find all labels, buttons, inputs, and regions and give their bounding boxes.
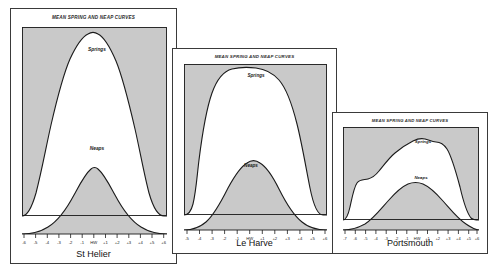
tidal-curve-svg (343, 127, 479, 230)
x-axis (22, 233, 167, 240)
tidal-curve-svg (22, 27, 167, 234)
x-axis (343, 229, 479, 236)
tick-label: +3 (126, 240, 131, 245)
panel-caption: St Helier (11, 249, 176, 259)
springs-label: Springs (88, 47, 106, 52)
x-axis (184, 229, 327, 236)
axis-ticks (187, 230, 325, 234)
neaps-label: Neaps (90, 146, 104, 151)
tidal-curve-plot (22, 27, 167, 234)
axis-ticks (345, 230, 477, 234)
panel-st-helier: MEAN SPRING AND NEAP CURVES Springs Neap… (10, 8, 177, 264)
tidal-curve-plot (343, 127, 479, 230)
panel-title: MEAN SPRING AND NEAP CURVES (11, 15, 176, 20)
tick-label: -6 (22, 240, 26, 245)
tick-label: -4 (45, 240, 49, 245)
panel-caption: Le Harve (173, 238, 336, 248)
springs-label: Springs (415, 139, 431, 144)
panel-title: MEAN SPRING AND NEAP CURVES (173, 54, 336, 59)
panel-title: MEAN SPRING AND NEAP CURVES (333, 118, 487, 123)
tick-label: -1 (80, 240, 84, 245)
panel-le-harve: MEAN SPRING AND NEAP CURVES Springs Neap… (172, 48, 337, 254)
tick-label: +2 (115, 240, 120, 245)
tick-label: +4 (138, 240, 143, 245)
panel-caption: Portsmouth (333, 238, 487, 248)
tick-label: +1 (103, 240, 108, 245)
neaps-label: Neaps (414, 175, 427, 180)
springs-label: Springs (247, 73, 264, 78)
tick-label: +5 (150, 240, 155, 245)
tick-label: -3 (57, 240, 61, 245)
axis-ticks (24, 234, 164, 238)
panel-portsmouth: MEAN SPRING AND NEAP CURVES Springs Neap… (332, 112, 488, 254)
tidal-curve-plot (184, 64, 327, 230)
tick-label: HW (90, 240, 97, 245)
tidal-curve-svg (184, 64, 327, 230)
x-axis-tick-labels: -6 -5 -4 -3 -2 -1 HW +1 +2 +3 +4 +5 +6 (22, 240, 167, 248)
tick-label: -5 (34, 240, 38, 245)
neaps-label: Neaps (244, 163, 258, 168)
tick-label: -2 (69, 240, 73, 245)
tick-label: +6 (161, 240, 166, 245)
